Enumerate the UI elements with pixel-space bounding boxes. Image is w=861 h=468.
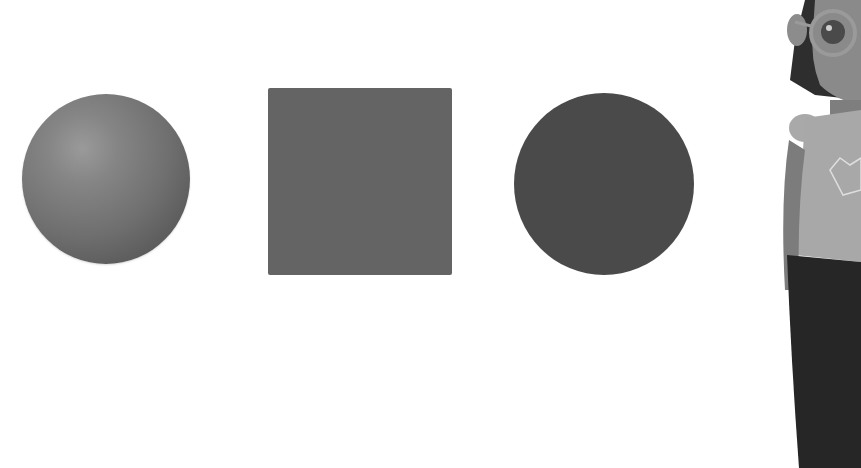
circle-shape: [514, 93, 694, 275]
sphere-shape: [22, 94, 190, 264]
cartoon-girl-character: [775, 0, 861, 468]
square-shape: [268, 88, 452, 275]
